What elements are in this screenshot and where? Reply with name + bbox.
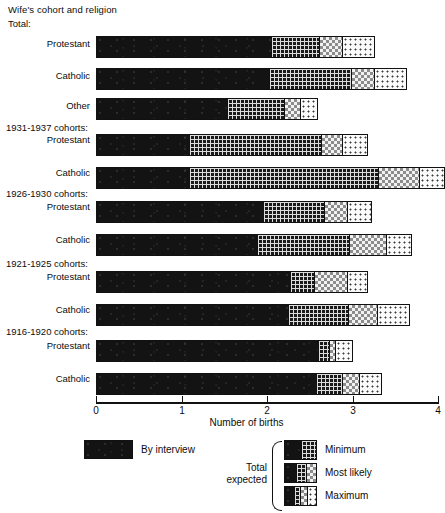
group-label-total: Total: [8,18,31,29]
category-label-1921-catholic: Catholic [0,304,90,315]
bar-segment-maximum [377,305,408,325]
bar-segment-maximum [347,202,372,222]
legend-label-most-likely: Most likely [325,467,372,478]
group-label-1916-1920: 1916-1920 cohorts: [6,326,88,337]
bar-segment-minimum [269,69,351,89]
bar-segment-minimum [316,374,341,394]
bar-segment-maximum [347,272,367,292]
legend-label-by-interview: By interview [141,444,195,455]
bar-total-other [96,98,318,120]
bar-segment-minimum [271,37,319,57]
legend-seg-most-likely [306,464,316,482]
bar-total-catholic [96,68,407,90]
legend-swatch-by-interview [84,440,133,459]
legend-swatch-minimum [284,440,317,460]
bar-segment-minimum [288,305,347,325]
legend-seg-most-likely [300,487,307,505]
bar-segment-most-likely [321,135,342,155]
legend-brace [272,441,282,511]
category-label-1916-catholic: Catholic [0,373,90,384]
legend-seg-interview [285,487,294,505]
bar-1916-1920-protestant [96,340,353,362]
bar-total-protestant [96,36,375,58]
category-label-1931-protestant: Protestant [0,134,90,145]
bar-segment-by-interview [97,305,288,325]
legend-swatch-most-likely [284,463,317,483]
plot-area [96,30,438,402]
category-label-1931-catholic: Catholic [0,167,90,178]
bar-1921-1925-catholic [96,304,410,326]
x-tick-1 [182,396,183,403]
bar-1926-1930-catholic [96,234,412,256]
x-tick-label-0: 0 [86,405,106,416]
bar-segment-by-interview [97,135,189,155]
category-label-total-other: Other [0,100,90,111]
bar-segment-minimum [318,341,330,361]
bar-segment-most-likely [324,202,346,222]
bar-segment-most-likely [284,99,299,119]
bar-segment-most-likely [348,305,378,325]
bar-segment-minimum [189,168,378,188]
x-tick-label-4: 4 [428,405,445,416]
bar-segment-minimum [189,135,321,155]
category-label-total-catholic: Catholic [0,70,90,81]
group-label-1926-1930: 1926-1930 cohorts: [6,188,88,199]
legend-seg-minimum [301,441,316,459]
legend-label-minimum: Minimum [325,444,366,455]
bar-segment-maximum [342,37,373,57]
category-label-1916-protestant: Protestant [0,340,90,351]
bar-segment-most-likely [349,235,386,255]
bar-1931-1937-catholic [96,167,445,189]
legend-seg-interview [285,441,301,459]
x-tick-3 [353,396,354,403]
bar-segment-by-interview [97,272,290,292]
bar-1921-1925-protestant [96,271,368,293]
x-tick-4 [438,396,439,403]
legend-seg-minimum [294,487,301,505]
group-label-1931-1937: 1931-1937 cohorts: [6,122,88,133]
bar-segment-by-interview [97,37,271,57]
legend-seg-maximum [307,487,316,505]
bar-segment-maximum [386,235,411,255]
legend-total-expected-line1: Total [205,462,267,474]
legend-total-expected-line2: expected [205,474,267,486]
bar-segment-maximum [374,69,406,89]
legend: By interview Total expected Minimum Most… [0,436,445,513]
category-label-1926-catholic: Catholic [0,234,90,245]
bar-segment-minimum [263,202,325,222]
bar-segment-by-interview [97,99,227,119]
bar-segment-maximum [300,99,318,119]
category-label-1921-protestant: Protestant [0,271,90,282]
bar-segment-most-likely [314,272,346,292]
chart-root: Wife's cohort and religion Total: 1931-1… [0,0,445,513]
bar-segment-by-interview [97,374,316,394]
legend-label-maximum: Maximum [325,490,368,501]
x-axis-title: Number of births [0,417,445,428]
bar-segment-by-interview [97,202,263,222]
legend-swatch-maximum [284,486,317,506]
category-label-1926-protestant: Protestant [0,201,90,212]
bar-segment-minimum [257,235,350,255]
bar-segment-by-interview [97,168,189,188]
bar-segment-maximum [342,135,367,155]
bar-1926-1930-protestant [96,201,372,223]
legend-seg-minimum [296,464,306,482]
x-tick-2 [267,396,268,403]
bar-segment-maximum [335,341,353,361]
bar-segment-most-likely [342,374,360,394]
bar-segment-maximum [359,374,381,394]
legend-total-expected-label: Total expected [205,462,267,485]
x-tick-label-1: 1 [172,405,192,416]
bar-segment-minimum [290,272,315,292]
bar-segment-by-interview [97,341,318,361]
legend-seg-interview [285,464,296,482]
bar-segment-by-interview [97,235,257,255]
bar-segment-minimum [227,99,284,119]
category-label-total-protestant: Protestant [0,38,90,49]
bar-segment-by-interview [97,69,269,89]
bar-segment-most-likely [378,168,420,188]
bar-segment-most-likely [319,37,342,57]
x-axis-title-text: Number of births [210,417,284,428]
bar-segment-maximum [419,168,444,188]
y-axis-title: Wife's cohort and religion [8,4,117,15]
